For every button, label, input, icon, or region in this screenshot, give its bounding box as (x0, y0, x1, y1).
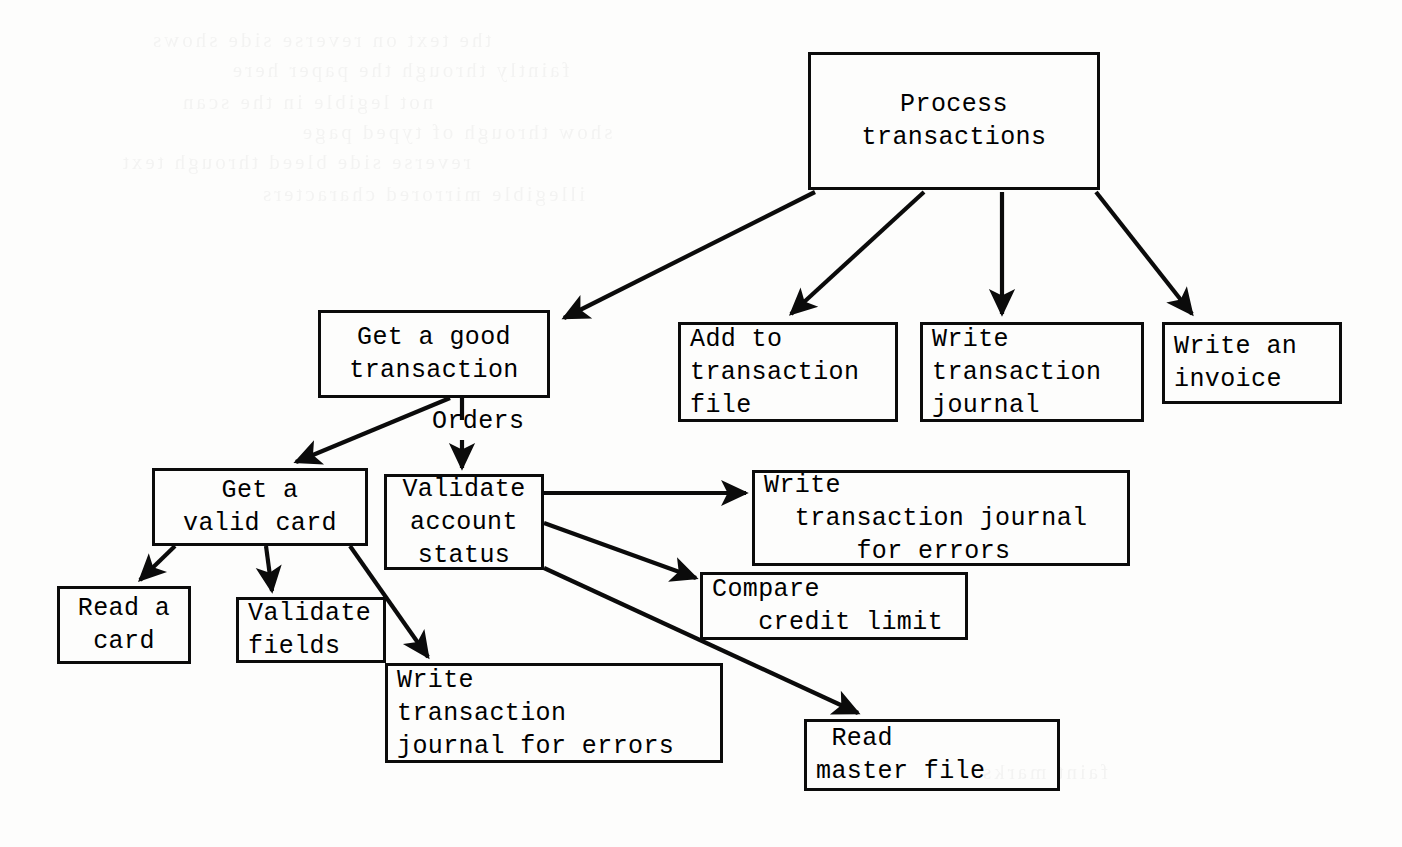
node-write-transaction-journal-for-errors-bottom[interactable]: Writetransactionjournal for errors (385, 663, 723, 763)
connector-process-to-get-good-transaction (564, 192, 815, 318)
node-label-line: journal for errors (397, 730, 720, 763)
node-label-line: Write an (1174, 330, 1339, 363)
node-validate-fields[interactable]: Validatefields (236, 597, 386, 663)
node-label-line: card (60, 625, 188, 658)
node-label-line: status (387, 539, 541, 572)
node-write-transaction-journal[interactable]: Writetransactionjournal (920, 322, 1144, 422)
node-label-line: fields (248, 630, 383, 663)
connector-process-to-write-an-invoice (1096, 192, 1192, 314)
node-label-line: transaction (932, 356, 1141, 389)
node-label-line: Add to (690, 323, 895, 356)
node-read-a-card[interactable]: Read acard (57, 586, 191, 664)
node-label-line: transaction (690, 356, 895, 389)
node-add-to-transaction-file[interactable]: Add totransactionfile (678, 322, 898, 422)
node-write-transaction-journal-for-errors-top[interactable]: Write transaction journal for errors (752, 470, 1130, 566)
node-process-transactions[interactable]: Processtransactions (808, 52, 1100, 190)
connector-validate-account-status-to-compare-credit-limit (544, 523, 696, 578)
node-label-line: valid card (155, 507, 365, 540)
connector-get-valid-card-to-read-a-card (140, 546, 175, 580)
node-get-a-good-transaction[interactable]: Get a goodtransaction (318, 310, 550, 398)
node-label-line: transaction journal (764, 502, 1127, 535)
node-label-line: Get a (155, 474, 365, 507)
flow-label-orders: Orders (432, 407, 524, 436)
connector-get-good-transaction-to-get-valid-card (296, 398, 450, 462)
node-label-line: Compare (712, 573, 965, 606)
connector-process-to-add-transaction-file (791, 192, 924, 314)
node-get-a-valid-card[interactable]: Get avalid card (152, 468, 368, 546)
node-validate-account-status[interactable]: Validateaccountstatus (384, 474, 544, 570)
node-label-line: Get a good (321, 321, 547, 354)
node-label-line: file (690, 389, 895, 422)
node-label-line: transactions (811, 121, 1097, 154)
node-label-line: Read a (60, 592, 188, 625)
node-label-line: account (387, 506, 541, 539)
node-label-line: Write (397, 664, 720, 697)
node-label-line: Write (764, 469, 1127, 502)
structure-chart-page: the text on reverse side showsfaintly th… (0, 0, 1402, 847)
node-label-line: master file (816, 755, 1057, 788)
node-label-line: journal (932, 389, 1141, 422)
node-label-line: transaction (397, 697, 720, 730)
node-read-master-file[interactable]: Readmaster file (804, 719, 1060, 791)
node-label-line: Validate (387, 473, 541, 506)
connector-get-valid-card-to-validate-fields (266, 546, 272, 591)
node-label-line: credit limit (712, 606, 965, 639)
node-label-line: Validate (248, 597, 383, 630)
node-write-an-invoice[interactable]: Write aninvoice (1162, 322, 1342, 404)
node-label-line: Read (816, 722, 1057, 755)
node-label-line: transaction (321, 354, 547, 387)
node-label-line: for errors (764, 535, 1127, 568)
node-compare-credit-limit[interactable]: Compare credit limit (700, 572, 968, 640)
node-label-line: invoice (1174, 363, 1339, 396)
node-label-line: Write (932, 323, 1141, 356)
node-label-line: Process (811, 88, 1097, 121)
